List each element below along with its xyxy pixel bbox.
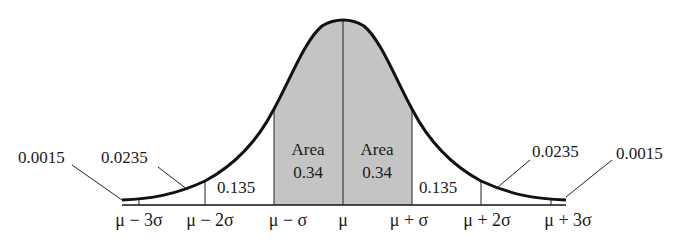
label-band3-right: 0.0235	[532, 142, 579, 161]
tick-label-mu-minus-2sigma: μ − 2σ	[186, 210, 234, 230]
label-band2-left: 0.135	[217, 178, 255, 197]
tick-label-mu-minus-sigma: μ − σ	[269, 210, 308, 230]
leader-right-band3	[498, 160, 530, 187]
tick-label-mu-plus-sigma: μ + σ	[390, 210, 429, 230]
label-area-right-value: 0.34	[362, 163, 392, 182]
label-area-right-title: Area	[360, 140, 393, 159]
label-band2-right: 0.135	[419, 178, 457, 197]
leader-left-tail	[72, 165, 122, 200]
label-tail-left: 0.0015	[18, 148, 65, 167]
normal-distribution-diagram: 0.0015 0.0235 0.135 Area 0.34 Area 0.34 …	[0, 0, 690, 252]
leader-left-band3	[158, 167, 188, 190]
tick-label-mu: μ	[338, 210, 348, 230]
label-area-left-title: Area	[291, 140, 324, 159]
label-tail-right: 0.0015	[616, 144, 663, 163]
leader-right-tail	[566, 160, 612, 197]
tick-label-mu-minus-3sigma: μ − 3σ	[115, 210, 163, 230]
tick-label-mu-plus-3sigma: μ + 3σ	[544, 210, 592, 230]
tick-label-mu-plus-2sigma: μ + 2σ	[463, 210, 511, 230]
label-band3-left: 0.0235	[101, 148, 148, 167]
label-area-left-value: 0.34	[293, 163, 323, 182]
